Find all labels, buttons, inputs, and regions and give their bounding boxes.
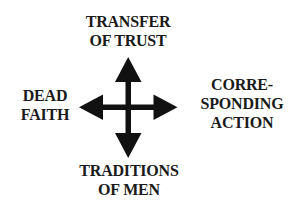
arrow-left-icon — [79, 95, 103, 121]
arrow-down-icon — [115, 133, 142, 158]
horizontal-shaft — [100, 105, 156, 111]
arrow-up-icon — [115, 57, 142, 82]
four-way-arrow-icon — [0, 0, 300, 213]
arrow-right-icon — [154, 95, 178, 121]
